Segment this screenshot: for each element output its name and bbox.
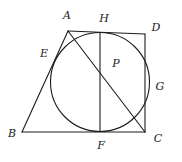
vertex-label-a: A [62,9,71,22]
vertex-label-h: H [98,12,109,25]
vertex-label-c: C [154,132,163,145]
geometry-figure: ABCDEFGHP [0,0,182,162]
vertex-label-b: B [7,127,16,140]
vertex-label-e: E [39,47,48,60]
vertex-label-p: P [111,57,120,70]
vertex-label-f: F [96,139,105,152]
vertex-label-layer: ABCDEFGHP [7,9,165,152]
vertex-label-d: D [151,21,161,34]
geometry-canvas: ABCDEFGHP [0,0,182,162]
vertex-label-g: G [156,80,165,93]
